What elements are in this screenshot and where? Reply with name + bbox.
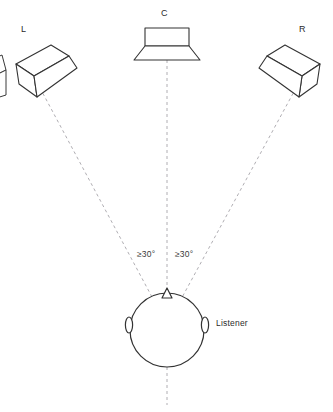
left-speaker-label: L (21, 25, 26, 34)
listener-ear-right (201, 317, 208, 333)
listener-head-circle (130, 293, 204, 367)
right-speaker-label: R (299, 25, 306, 34)
left-speaker (16, 45, 77, 97)
line-art-layer (0, 0, 333, 412)
right-speaker (259, 45, 320, 97)
center-speaker-body (134, 46, 200, 60)
listener-head (125, 288, 208, 367)
speaker-placement-diagram: L C R ≥30° ≥30° Listener (0, 0, 333, 412)
center-speaker-top-box (145, 28, 189, 46)
left-edge-partial-speaker (0, 55, 6, 100)
listener-ear-left (125, 317, 132, 333)
listener-label: Listener (216, 319, 248, 328)
angle-label-left: ≥30° (137, 250, 155, 259)
center-speaker-label: C (161, 9, 168, 18)
center-speaker (134, 28, 200, 60)
angle-label-right: ≥30° (175, 250, 193, 259)
